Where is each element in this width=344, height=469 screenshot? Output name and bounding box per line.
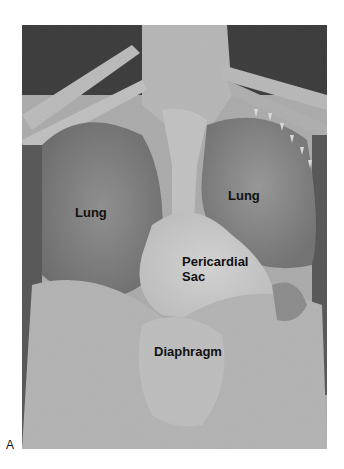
label-diaphragm: Diaphragm <box>154 345 222 359</box>
dissection-photo <box>22 25 327 449</box>
label-lung-left: Lung <box>228 189 260 203</box>
label-lung-right: Lung <box>75 206 107 220</box>
photo-illustration <box>22 25 327 449</box>
label-pericardial-sac-line2: Sac <box>182 270 205 284</box>
panel-letter: A <box>6 438 14 452</box>
label-pericardial-sac-line1: Pericardial <box>182 255 249 269</box>
